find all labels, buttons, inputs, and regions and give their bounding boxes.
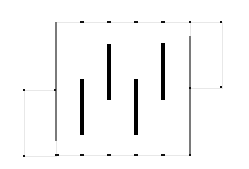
black-vertical-bar [134,79,138,135]
dash-marker [107,154,111,156]
dash-marker [80,21,84,23]
black-bars [80,43,165,135]
dash-marker [134,21,138,23]
dot-marker [220,86,222,88]
diagram-canvas [0,0,249,169]
black-vertical-bar [107,44,111,100]
dash-marker [80,154,84,156]
dash-marker [107,21,111,23]
dash-marker [134,154,138,156]
dot-marker [189,21,191,23]
black-vertical-bar [161,43,165,100]
dot-marker [23,155,25,157]
gray-lines [55,22,191,155]
dot-marker [23,89,25,91]
faint-box [191,23,223,89]
dot-marker [220,21,222,23]
gray-vertical-line [189,36,191,155]
dash-marker [161,154,165,156]
dot-marker [189,87,191,89]
dot-marker [54,89,56,91]
dot-marker [189,154,191,156]
gray-vertical-line [55,22,57,141]
black-vertical-bar [80,79,84,135]
dash-marker [55,154,59,156]
dash-marker [161,21,165,23]
faint-box [25,91,57,157]
faint-box [57,23,191,156]
